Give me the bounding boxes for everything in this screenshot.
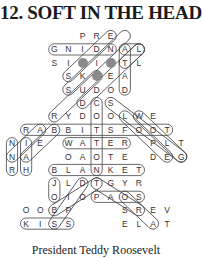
grid-letter: S	[48, 218, 60, 230]
grid-letter: T	[91, 137, 103, 149]
grid-letter: N	[62, 43, 74, 55]
grid-letter: L	[119, 110, 131, 122]
grid-letter: I	[62, 191, 74, 203]
grid-letter: O	[147, 124, 159, 136]
grid-letter: D	[77, 177, 89, 189]
grid-letter: J	[48, 177, 60, 189]
grid-letter: E	[147, 204, 159, 216]
grid-letter: A	[77, 151, 89, 163]
grid-letter: T	[91, 124, 103, 136]
grid-letter: T	[105, 151, 117, 163]
grid-letter: T	[91, 177, 103, 189]
grid-letter: O	[48, 191, 60, 203]
grid-letter: A	[119, 70, 131, 82]
grid-letter: A	[20, 151, 32, 163]
grid-letter: A	[77, 137, 89, 149]
grid-letter: A	[77, 164, 89, 176]
grid-letter: B	[62, 124, 74, 136]
grid-letter: R	[133, 177, 145, 189]
grid-letter: L	[62, 164, 74, 176]
grid-letter: N	[6, 137, 18, 149]
grid-letter: S	[62, 70, 74, 82]
grid-letter: O	[77, 191, 89, 203]
grid-letter: L	[133, 43, 145, 55]
grid-letter: N	[91, 164, 103, 176]
grid-letter: B	[48, 124, 60, 136]
grid-letter: A	[119, 43, 131, 55]
grid-letter: E	[147, 110, 159, 122]
grid-letter: N	[105, 43, 117, 55]
grid-letter: T	[133, 164, 145, 176]
grid-letter: V	[161, 204, 173, 216]
grid-letter: O	[105, 110, 117, 122]
grid-letter: I	[62, 57, 74, 69]
grid-letter: T	[119, 57, 131, 69]
grid-letter: P	[77, 30, 89, 42]
puzzle-caption: President Teddy Roosevelt	[0, 243, 192, 258]
grid-letter: R	[133, 204, 145, 216]
grid-letter: I	[77, 43, 89, 55]
grid-letter: E	[161, 151, 173, 163]
grid-letter: O	[91, 110, 103, 122]
grid-letter: G	[105, 177, 117, 189]
grid-letter: O	[119, 191, 131, 203]
grid-letter: R	[48, 110, 60, 122]
grid-letter: K	[105, 164, 117, 176]
grid-letter: T	[161, 124, 173, 136]
grid-letter: Y	[62, 110, 74, 122]
grid-letter: E	[105, 137, 117, 149]
grid-letter: U	[77, 84, 89, 96]
grid-letter: O	[105, 84, 117, 96]
grid-letter: E	[105, 70, 117, 82]
grid-letter: O	[20, 204, 32, 216]
grid-letter: O	[133, 124, 145, 136]
grid-letter: P	[62, 204, 74, 216]
grid-letter: G	[48, 43, 60, 55]
grid-letter: N	[6, 151, 18, 163]
grid-letter: K	[77, 70, 89, 82]
grid-letter: S	[133, 191, 145, 203]
grid-letter: A	[34, 124, 46, 136]
grid-letter: I	[34, 218, 46, 230]
grid-letter: I	[77, 124, 89, 136]
grid-letter: E	[34, 137, 46, 149]
shaded-cell-dot	[92, 71, 102, 81]
grid-letter: R	[119, 137, 131, 149]
grid-letter: L	[161, 137, 173, 149]
grid-letter: S	[48, 57, 60, 69]
grid-letter: E	[119, 151, 131, 163]
grid-letter: A	[105, 191, 117, 203]
grid-letter: S	[62, 84, 74, 96]
grid-letter: B	[48, 204, 60, 216]
grid-letter: G	[175, 151, 187, 163]
grid-letter: W	[62, 137, 74, 149]
grid-letter: O	[91, 151, 103, 163]
grid-letter: D	[91, 43, 103, 55]
grid-letter: A	[147, 218, 159, 230]
grid-letter: H	[20, 164, 32, 176]
grid-letter: O	[34, 204, 46, 216]
grid-letter: P	[147, 137, 159, 149]
shaded-cell-dot	[106, 58, 116, 68]
grid-letter: S	[105, 124, 117, 136]
grid-letter: D	[119, 84, 131, 96]
grid-letter: R	[6, 164, 18, 176]
grid-letter: I	[91, 57, 103, 69]
grid-letter: S	[62, 218, 74, 230]
grid-letter: D	[147, 151, 159, 163]
grid-letter: P	[91, 191, 103, 203]
grid-letter: S	[105, 97, 117, 109]
grid-letter: E	[119, 218, 131, 230]
grid-letter: D	[91, 84, 103, 96]
grid-letter: E	[105, 30, 117, 42]
grid-letter: K	[20, 218, 32, 230]
grid-letter: L	[133, 57, 145, 69]
grid-letter: W	[133, 110, 145, 122]
shaded-cell-dot	[78, 58, 88, 68]
grid-letter: Y	[119, 177, 131, 189]
grid-letter: R	[20, 124, 32, 136]
grid-letter: L	[133, 218, 145, 230]
grid-letter: L	[62, 177, 74, 189]
grid-letter: S	[119, 204, 131, 216]
grid-letter: B	[48, 164, 60, 176]
